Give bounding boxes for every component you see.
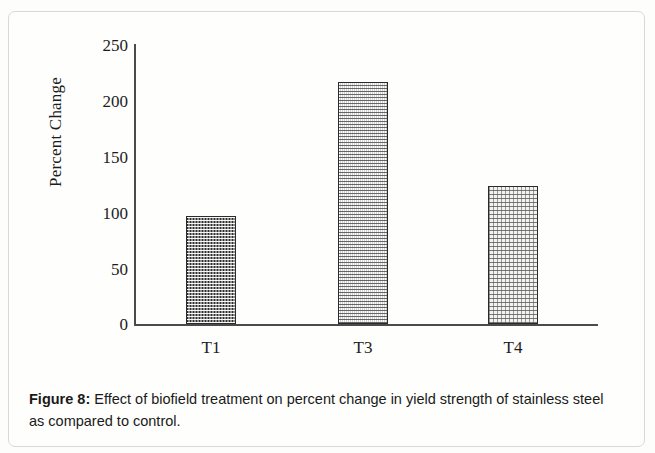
y-tick-label-200: 200 [86,93,128,110]
figure-caption-text: Effect of biofield treatment on percent … [29,391,603,429]
figure-container: Percent Change 250 200 150 100 50 0 T1 T… [0,0,655,453]
x-tick-label-t1: T1 [166,338,256,358]
x-tick-label-t4: T4 [468,338,558,358]
bar-chart: Percent Change 250 200 150 100 50 0 T1 T… [0,0,655,380]
y-tick-label-100: 100 [86,205,128,222]
y-tick-label-50: 50 [86,261,128,278]
y-tick-label-250: 250 [86,37,128,54]
y-axis-line [134,44,136,325]
bar-t4 [488,186,538,324]
bar-t1 [186,216,236,324]
bar-t3 [338,82,388,324]
x-axis-line [134,324,598,326]
figure-caption-label: Figure 8 [29,391,85,407]
x-tick-label-t3: T3 [318,338,408,358]
y-tick-label-0: 0 [86,316,128,333]
y-tick-label-150: 150 [86,149,128,166]
y-axis-tick-labels: 250 200 150 100 50 0 [86,0,128,380]
y-axis-title: Percent Change [46,32,66,232]
figure-caption: Figure 8: Effect of biofield treatment o… [29,388,621,432]
